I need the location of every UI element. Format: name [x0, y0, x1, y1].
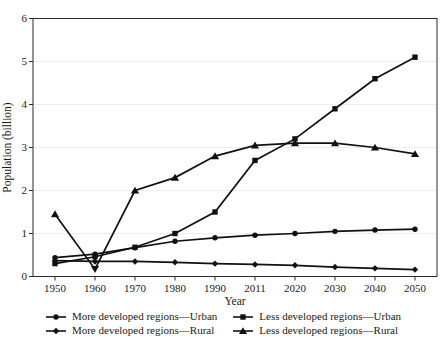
- series-less-developed-regions-urban: [52, 55, 417, 267]
- x-tick-label: 2040: [364, 282, 387, 294]
- triangle-marker-icon: [232, 325, 254, 337]
- y-tick-label: 4: [22, 98, 28, 110]
- x-tick-label: 1980: [164, 282, 187, 294]
- x-axis-title: Year: [224, 295, 245, 307]
- legend-item-less-developed-urban: Less developed regions—Urban: [232, 310, 401, 323]
- series-more-developed-regions-urban: [52, 227, 417, 261]
- population-chart: 0123456195019601970198019902011202020302…: [0, 0, 446, 308]
- diamond-marker-icon: [45, 325, 67, 337]
- x-tick-label: 1990: [204, 282, 227, 294]
- x-tick-label: 2011: [244, 282, 266, 294]
- y-tick-label: 6: [22, 12, 28, 24]
- y-tick-label: 5: [22, 55, 28, 67]
- x-tick-label: 2020: [284, 282, 307, 294]
- series-more-developed-regions-rural: [52, 257, 418, 272]
- x-tick-label: 2030: [324, 282, 347, 294]
- y-tick-label: 2: [22, 184, 28, 196]
- legend-label: Less developed regions—Rural: [259, 324, 398, 337]
- x-tick-label: 1960: [84, 282, 107, 294]
- circle-marker-icon: [45, 311, 67, 323]
- square-marker-icon: [232, 311, 254, 323]
- legend: More developed regions—Urban More develo…: [0, 310, 446, 337]
- series-line: [55, 261, 415, 270]
- y-tick-label: 3: [22, 141, 28, 153]
- x-tick-label: 1950: [44, 282, 67, 294]
- series-line: [55, 57, 415, 263]
- y-tick-label: 0: [22, 270, 28, 282]
- legend-column-left: More developed regions—Urban More develo…: [45, 310, 217, 337]
- x-tick-label: 1970: [124, 282, 147, 294]
- legend-item-more-developed-urban: More developed regions—Urban: [45, 310, 217, 323]
- legend-label: More developed regions—Rural: [72, 324, 214, 337]
- series-line: [55, 143, 415, 269]
- legend-label: Less developed regions—Urban: [259, 310, 401, 323]
- legend-label: More developed regions—Urban: [72, 310, 217, 323]
- x-tick-label: 2050: [404, 282, 427, 294]
- figure: 0123456195019601970198019902011202020302…: [0, 0, 446, 349]
- legend-item-less-developed-rural: Less developed regions—Rural: [232, 324, 401, 337]
- y-tick-label: 1: [22, 227, 28, 239]
- y-axis-title: Population (billion): [1, 102, 14, 193]
- legend-column-right: Less developed regions—Urban Less develo…: [232, 310, 401, 337]
- legend-item-more-developed-rural: More developed regions—Rural: [45, 324, 217, 337]
